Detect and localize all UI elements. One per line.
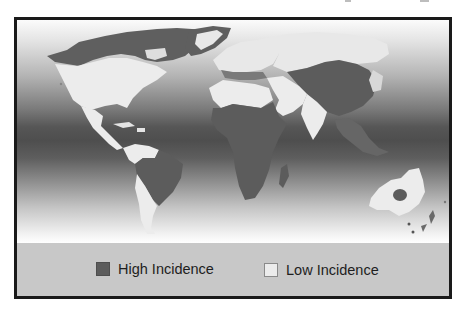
high-incidence-swatch: [96, 262, 110, 276]
legend-item-low: Low Incidence: [264, 262, 379, 278]
world-map-graphic: [17, 20, 449, 243]
region-sub-saharan-africa: [211, 102, 287, 200]
island-dot: [408, 223, 411, 226]
region-central-australia: [393, 189, 407, 201]
region-usa: [55, 58, 167, 110]
cropped-header-fragment: [0, 0, 467, 4]
world-map: [17, 20, 449, 243]
region-southeast-asia: [335, 118, 389, 156]
legend-label-low: Low Incidence: [286, 262, 379, 278]
region-madagascar: [279, 164, 289, 188]
low-incidence-swatch: [264, 263, 278, 277]
legend-label-high: High Incidence: [118, 261, 214, 277]
region-mexico: [81, 106, 123, 150]
region-north-africa: [209, 80, 273, 108]
island-dot: [412, 231, 415, 234]
map-figure: High Incidence Low Incidence: [14, 17, 452, 299]
legend-item-high: High Incidence: [96, 261, 214, 277]
island-dot: [444, 201, 446, 203]
island-dot: [60, 83, 62, 85]
map-legend: High Incidence Low Incidence: [17, 243, 449, 296]
region-new-zealand: [421, 210, 435, 232]
region-caribbean: [113, 122, 145, 132]
